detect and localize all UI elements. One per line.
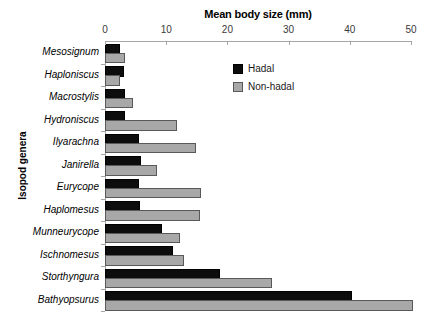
chart-category-row: Bathyopsurus (105, 289, 411, 312)
chart-title: Mean body size (mm) (105, 8, 411, 20)
x-axis-tick-mark (227, 41, 228, 45)
bar-chart: Mean body size (mm) 01020304050 Isopod g… (0, 0, 431, 321)
chart-bar-non-hadal (105, 300, 413, 311)
y-axis-category-label: Haplomesus (0, 204, 99, 215)
y-axis-category-label: Storthyngura (0, 271, 99, 282)
x-axis-tick-mark (105, 41, 106, 45)
legend-item: Non-hadal (233, 81, 294, 92)
x-axis-tick-label: 30 (274, 24, 304, 35)
legend-swatch-icon (233, 82, 243, 92)
y-axis-tick-mark (101, 86, 105, 87)
y-axis-category-label: Hydroniscus (0, 114, 99, 125)
x-axis-tick-mark (289, 41, 290, 45)
y-axis-category-label: Ischnomesus (0, 249, 99, 260)
chart-bar-non-hadal (105, 233, 180, 244)
chart-bar-non-hadal (105, 188, 201, 199)
y-axis-tick-mark (101, 199, 105, 200)
chart-bar-non-hadal (105, 53, 125, 64)
legend-label: Hadal (248, 63, 274, 74)
y-axis-tick-mark (101, 109, 105, 110)
legend-swatch-icon (233, 64, 243, 74)
y-axis-tick-mark (101, 266, 105, 267)
chart-bar-non-hadal (105, 143, 196, 154)
chart-category-row: Hydroniscus (105, 109, 411, 132)
x-axis-tick-label: 50 (396, 24, 426, 35)
chart-category-row: Mesosignum (105, 41, 411, 64)
y-axis-category-label: Munneurycope (0, 226, 99, 237)
y-axis-category-label: Eurycope (0, 181, 99, 192)
x-axis-tick-labels: 01020304050 (0, 24, 431, 38)
y-axis-tick-mark (101, 131, 105, 132)
chart-bar-non-hadal (105, 75, 120, 86)
legend-label: Non-hadal (248, 81, 294, 92)
y-axis-category-label: Bathyopsurus (0, 294, 99, 305)
chart-category-row: Ilyarachna (105, 131, 411, 154)
y-axis-tick-mark (101, 64, 105, 65)
x-axis-tick-mark (166, 41, 167, 45)
chart-bar-non-hadal (105, 120, 177, 131)
chart-category-row: Eurycope (105, 176, 411, 199)
y-axis-tick-mark (101, 311, 105, 312)
y-axis-tick-mark (101, 244, 105, 245)
chart-category-row: Ischnomesus (105, 244, 411, 267)
x-axis-tick-label: 0 (90, 24, 120, 35)
legend-item: Hadal (233, 63, 294, 74)
chart-bar-non-hadal (105, 165, 157, 176)
chart-bar-non-hadal (105, 255, 184, 266)
y-axis-tick-mark (101, 154, 105, 155)
x-axis-tick-label: 20 (212, 24, 242, 35)
x-axis-tick-mark (350, 41, 351, 45)
chart-bar-non-hadal (105, 98, 133, 109)
chart-bar-non-hadal (105, 278, 272, 289)
y-axis-category-label: Ilyarachna (0, 136, 99, 147)
x-axis-tick-mark (411, 41, 412, 45)
chart-category-row: Janirella (105, 154, 411, 177)
y-axis-category-label: Janirella (0, 159, 99, 170)
y-axis-tick-mark (101, 176, 105, 177)
chart-bar-non-hadal (105, 210, 200, 221)
y-axis-category-label: Macrostylis (0, 91, 99, 102)
y-axis-tick-mark (101, 221, 105, 222)
chart-category-row: Haplomesus (105, 199, 411, 222)
y-axis-category-label: Haploniscus (0, 69, 99, 80)
chart-category-row: Storthyngura (105, 266, 411, 289)
chart-category-row: Munneurycope (105, 221, 411, 244)
x-axis-tick-label: 40 (335, 24, 365, 35)
y-axis-tick-mark (101, 289, 105, 290)
y-axis-category-label: Mesosignum (0, 46, 99, 57)
chart-legend: HadalNon-hadal (233, 63, 294, 99)
x-axis-tick-label: 10 (151, 24, 181, 35)
